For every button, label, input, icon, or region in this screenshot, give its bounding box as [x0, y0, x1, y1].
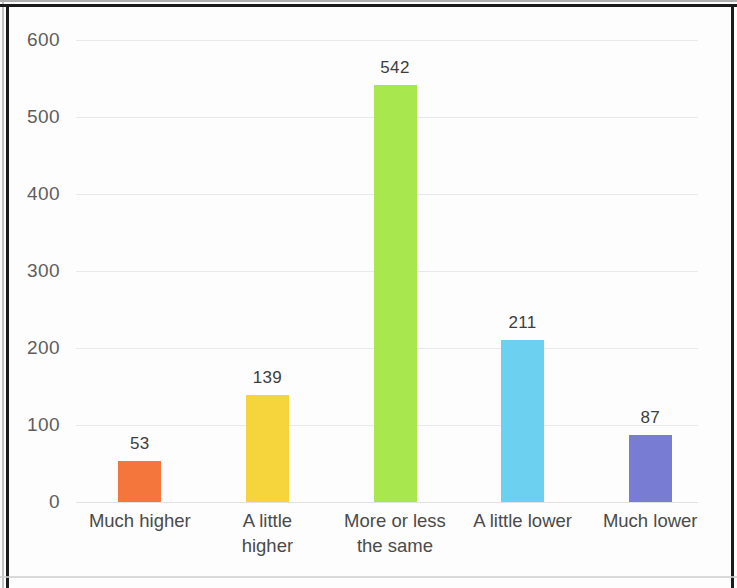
- chart-border-top: [0, 4, 737, 7]
- x-axis-label-line1: A little: [243, 510, 292, 531]
- x-axis-label-3: A little lower: [453, 508, 593, 533]
- y-axis-tick-100: 100: [27, 414, 60, 436]
- x-axis-label-2: More or lessthe same: [325, 508, 465, 558]
- y-axis-tick-600: 600: [27, 29, 60, 51]
- y-axis-tick-0: 0: [49, 491, 60, 513]
- y-axis-tick-500: 500: [27, 106, 60, 128]
- x-axis-label-1: A littlehigher: [198, 508, 338, 558]
- x-axis-labels: Much higherA littlehigherMore or lessthe…: [76, 508, 714, 578]
- gridline-0: [76, 502, 698, 503]
- bar-green[interactable]: 542: [374, 85, 417, 502]
- x-axis-label-line1: A little lower: [473, 510, 572, 531]
- bar-value-label: 53: [130, 434, 150, 454]
- x-axis-label-4: Much lower: [580, 508, 720, 533]
- bar-value-label: 542: [380, 58, 409, 78]
- x-axis-label-0: Much higher: [70, 508, 210, 533]
- bar-value-label: 87: [640, 408, 660, 428]
- plot-area: 01002003004005006005313954221187: [76, 40, 714, 502]
- gridline-600: [76, 40, 698, 41]
- x-axis-label-line2: the same: [325, 533, 465, 558]
- x-axis-label-line1: More or less: [344, 510, 446, 531]
- x-axis-label-line2: higher: [198, 533, 338, 558]
- chart-border-right: [731, 4, 734, 588]
- bar-purple[interactable]: 87: [629, 435, 672, 502]
- chart-border-left: [6, 4, 9, 588]
- bar-value-label: 211: [509, 313, 537, 333]
- y-axis-tick-300: 300: [27, 260, 60, 282]
- y-axis-tick-200: 200: [27, 337, 60, 359]
- bar-value-label: 139: [253, 368, 282, 388]
- bar-yellow[interactable]: 139: [246, 395, 289, 502]
- bar-light-blue[interactable]: 211: [501, 340, 544, 502]
- x-axis-label-line1: Much lower: [603, 510, 698, 531]
- x-axis-label-line1: Much higher: [89, 510, 191, 531]
- y-axis-tick-400: 400: [27, 183, 60, 205]
- bar-orange[interactable]: 53: [118, 461, 161, 502]
- page-edge-top-outer: [0, 0, 737, 2]
- page-edge-left-outer: [2, 2, 4, 588]
- bar-chart-figure: 01002003004005006005313954221187 Much hi…: [0, 0, 737, 588]
